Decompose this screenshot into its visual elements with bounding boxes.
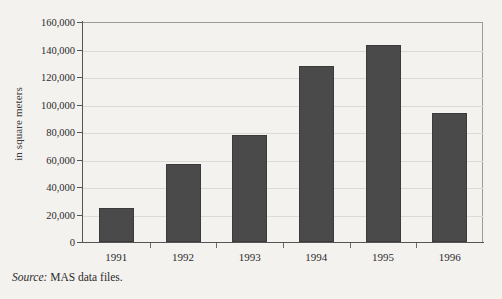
y-axis-tick-label: 0 [3,237,75,248]
y-axis-tick [77,160,82,161]
y-axis-title: in square meters [6,0,30,248]
x-axis-tick [216,243,217,248]
x-axis-tick-label: 1994 [305,251,327,263]
y-axis-tick [77,132,82,133]
y-axis-tick-label: 60,000 [3,154,75,165]
y-axis-title-label: in square meters [12,87,24,161]
bar-chart-figure: in square meters 020,00040,00060,00080,0… [0,0,502,299]
x-axis-tick-label: 1992 [172,251,194,263]
y-axis-tick-label: 40,000 [3,182,75,193]
y-axis-tick-label: 100,000 [3,99,75,110]
y-axis-tick [77,215,82,216]
source-label: Source: [12,271,47,283]
x-axis-tick-label: 1995 [372,251,394,263]
y-axis-tick-label: 160,000 [3,17,75,28]
bar [299,66,334,242]
y-axis-tick [77,22,82,23]
bar-series [83,22,483,242]
x-axis-tick [283,243,284,248]
source-note: Source: MAS data files. [12,271,123,283]
bar [366,45,401,242]
bar [232,135,267,242]
y-axis-tick-label: 140,000 [3,44,75,55]
y-axis-tick [77,187,82,188]
y-axis-tick-label: 20,000 [3,209,75,220]
source-text: MAS data files. [50,271,123,283]
bar [166,164,201,242]
x-axis-tick-label: 1993 [239,251,261,263]
bar [99,208,134,242]
x-axis-tick [416,243,417,248]
y-axis-tick-label: 120,000 [3,72,75,83]
y-axis-tick-label: 80,000 [3,127,75,138]
y-axis-tick [77,105,82,106]
y-axis-tick [77,77,82,78]
x-axis-tick [350,243,351,248]
y-axis-tick [77,50,82,51]
x-axis-tick-label: 1991 [105,251,127,263]
bar [432,113,467,242]
x-axis-tick-label: 1996 [439,251,461,263]
y-axis-tick-labels: 020,00040,00060,00080,000100,000120,0001… [0,0,75,299]
x-axis-tick [150,243,151,248]
y-axis-tick [77,242,82,243]
